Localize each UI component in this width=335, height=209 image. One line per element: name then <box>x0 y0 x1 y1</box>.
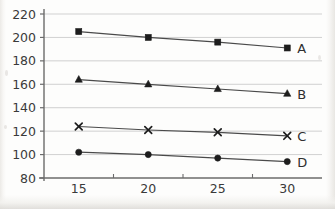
series-d-point-marker <box>145 151 151 157</box>
line-chart-canvas: 80100120140160180200220 15202530 ABCD <box>0 0 335 209</box>
y-tick-label: 220 <box>12 7 36 22</box>
series-end-labels: ABCD <box>297 41 307 170</box>
y-tick-label: 140 <box>12 100 36 115</box>
series-a-point-marker <box>76 29 82 35</box>
y-tick-label: 180 <box>12 53 36 68</box>
x-tick-label: 30 <box>279 181 295 196</box>
y-tick-label: 160 <box>12 77 36 92</box>
series-markers <box>75 29 291 165</box>
y-tick-label: 200 <box>12 30 36 45</box>
y-tick-label: 80 <box>20 171 36 186</box>
series-a-point-marker <box>284 45 290 51</box>
series-label-a: A <box>297 41 306 56</box>
series-label-d: D <box>297 155 307 170</box>
x-axis-tick-labels: 15202530 <box>71 181 295 196</box>
series-line-a <box>79 32 287 48</box>
y-axis-tick-labels: 80100120140160180200220 <box>12 7 36 186</box>
y-tick-label: 120 <box>12 124 36 139</box>
series-label-c: C <box>297 129 306 144</box>
series-b-point-marker <box>75 76 82 83</box>
series-label-b: B <box>297 87 306 102</box>
chart-figure: 80100120140160180200220 15202530 ABCD <box>0 0 335 209</box>
series-a-point-marker <box>145 34 151 40</box>
x-tick-label: 20 <box>140 181 156 196</box>
series-d-point-marker <box>284 159 290 165</box>
series-d-point-marker <box>76 149 82 155</box>
x-tick-label: 25 <box>210 181 226 196</box>
series-a-point-marker <box>215 39 221 45</box>
series-line-b <box>79 80 287 94</box>
x-tick-label: 15 <box>71 181 87 196</box>
series-lines <box>79 32 287 162</box>
series-line-d <box>79 152 287 161</box>
y-tick-label: 100 <box>12 147 36 162</box>
series-d-point-marker <box>215 155 221 161</box>
grid-lines <box>44 14 322 155</box>
